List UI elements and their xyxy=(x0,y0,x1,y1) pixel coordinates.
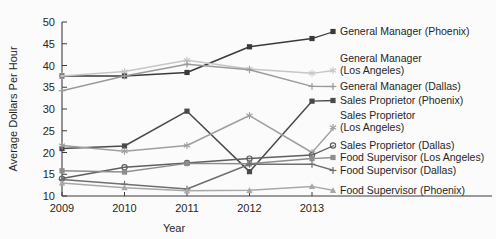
y-tick-label: 35 xyxy=(43,81,55,93)
data-point-marker xyxy=(122,169,127,174)
data-point-marker xyxy=(330,98,335,103)
data-point-marker xyxy=(184,70,189,75)
data-point-marker xyxy=(184,109,189,114)
x-tick-label: 2010 xyxy=(112,202,136,214)
y-tick-label: 40 xyxy=(43,60,55,72)
data-point-marker xyxy=(330,155,335,160)
legend-label-food-supervisor-los-angeles: Food Supervisor (Los Angeles) xyxy=(340,151,484,163)
legend-label-food-supervisor-dallas: Food Supervisor (Dallas) xyxy=(340,164,456,176)
y-axis-title: Average Dollars Per Hour xyxy=(7,46,19,171)
x-tick-label: 2011 xyxy=(175,202,199,214)
legend-label-sales-proprietor-dallas: Sales Proprietor (Dallas) xyxy=(340,139,454,151)
legend-label-general-manager-dallas: General Manager (Dallas) xyxy=(340,80,461,92)
y-tick-label: 30 xyxy=(43,103,55,115)
x-axis-title: Year xyxy=(163,222,186,234)
data-point-marker xyxy=(59,168,64,173)
x-tick-label: 2012 xyxy=(237,202,261,214)
y-axis: 101520253035404550 xyxy=(43,16,67,202)
x-tick-label: 2013 xyxy=(300,202,324,214)
y-tick-label: 50 xyxy=(43,16,55,28)
data-point-marker xyxy=(247,44,252,49)
data-point-marker xyxy=(247,169,252,174)
y-tick-label: 25 xyxy=(43,125,55,137)
legend-label-food-supervisor-phoenix: Food Supervisor (Phoenix) xyxy=(340,184,465,196)
y-tick-label: 15 xyxy=(43,168,55,180)
legend-label-los-angeles: (Los Angeles) xyxy=(340,64,404,76)
data-point-marker xyxy=(184,161,189,166)
y-tick-label: 20 xyxy=(43,147,55,159)
y-tick-label: 45 xyxy=(43,38,55,50)
data-point-marker xyxy=(330,29,335,34)
legend-label-sales-proprietor-phoenix: Sales Proprietor (Phoenix) xyxy=(340,94,463,106)
legend-label-general-manager: General Manager xyxy=(340,52,422,64)
y-tick-label: 10 xyxy=(43,190,55,202)
legend-label-sales-proprietor: Sales Proprietor xyxy=(340,109,416,121)
line-chart: 101520253035404550 20092010201120122013 … xyxy=(0,0,496,239)
x-tick-label: 2009 xyxy=(50,202,74,214)
chart-canvas: 101520253035404550 20092010201120122013 … xyxy=(0,0,496,239)
legend-label-los-angeles: (Los Angeles) xyxy=(340,121,404,133)
legend-label-general-manager-phoenix: General Manager (Phoenix) xyxy=(340,25,470,37)
